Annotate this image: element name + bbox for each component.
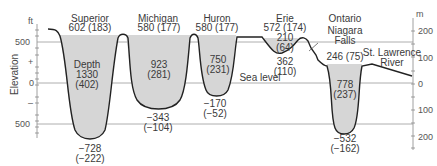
right-axis bbox=[411, 18, 415, 150]
lake-huron-surface: 580 (177) bbox=[192, 23, 242, 33]
water-fill bbox=[59, 35, 362, 139]
left-axis bbox=[35, 24, 39, 138]
st-lawrence-label-line2: River bbox=[362, 58, 422, 68]
left-tick-500-upper: 500 bbox=[15, 38, 30, 47]
right-tick-200-upper: 200 bbox=[418, 27, 433, 36]
left-tick-zero: 0 bbox=[29, 79, 34, 88]
lake-ontario-depth-m: (237) bbox=[330, 90, 360, 100]
left-axis-unit: ft bbox=[28, 17, 33, 26]
lake-huron-bottom-m: (−52) bbox=[195, 109, 235, 119]
lake-michigan-surface: 580 (177) bbox=[134, 23, 184, 33]
lake-huron-depth-m: (231) bbox=[203, 65, 233, 75]
lake-erie-bottom-m: (110) bbox=[268, 67, 302, 77]
elevation-axis-title: Elevation bbox=[9, 54, 20, 95]
left-tick-500-lower: 500 bbox=[15, 120, 30, 129]
lake-ontario-bottom-m: (−162) bbox=[326, 144, 364, 154]
lake-erie-depth-m: (64) bbox=[270, 43, 300, 53]
lake-superior-bottom-m: (−222) bbox=[70, 154, 110, 164]
lake-superior-depth-m: (402) bbox=[72, 80, 102, 90]
left-tick-minus: – bbox=[28, 99, 33, 108]
lake-michigan-bottom-m: (−104) bbox=[138, 123, 178, 133]
right-tick-100-lower: 100 bbox=[418, 106, 433, 115]
right-tick-zero: 0 bbox=[418, 80, 423, 89]
lake-michigan-depth-m: (281) bbox=[144, 70, 174, 80]
lake-ontario-name: Ontario bbox=[325, 14, 365, 24]
left-tick-plus: + bbox=[28, 58, 33, 67]
right-axis-unit: m bbox=[416, 10, 424, 19]
lake-superior-surface: 602 (183) bbox=[65, 23, 115, 33]
niagara-label-line2: Falls bbox=[325, 36, 365, 46]
right-tick-200-lower: 200 bbox=[418, 133, 433, 142]
